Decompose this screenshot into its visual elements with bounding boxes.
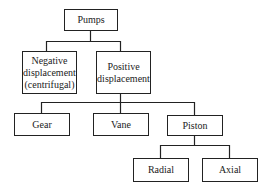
node-label: Axial xyxy=(219,164,241,176)
node-label-line2: displacement xyxy=(97,73,150,85)
node-axial: Axial xyxy=(202,158,258,182)
node-positive-displacement: Positive displacement xyxy=(96,51,151,94)
node-vane: Vane xyxy=(93,113,149,136)
node-gear: Gear xyxy=(14,113,70,136)
node-label-line2: displacement xyxy=(23,67,76,79)
node-label-line3: (centrifugal) xyxy=(23,79,76,91)
node-label: Gear xyxy=(32,119,51,131)
node-label: Vane xyxy=(111,119,131,131)
node-piston: Piston xyxy=(167,115,223,136)
node-radial: Radial xyxy=(133,158,189,182)
node-label-line1: Positive xyxy=(97,61,150,73)
node-label-line1: Negative xyxy=(23,55,76,67)
node-pumps: Pumps xyxy=(64,9,118,31)
node-negative-displacement: Negative displacement (centrifugal) xyxy=(22,51,77,94)
node-label: Piston xyxy=(182,120,207,132)
node-label: Radial xyxy=(148,164,174,176)
node-label: Pumps xyxy=(77,14,104,26)
